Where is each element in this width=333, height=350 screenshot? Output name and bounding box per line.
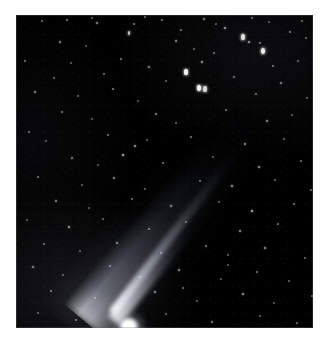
star [75, 319, 77, 321]
star [120, 58, 122, 60]
star [185, 221, 187, 223]
star [203, 18, 205, 20]
star [134, 145, 137, 148]
star [128, 31, 131, 35]
star [283, 138, 285, 140]
star [160, 252, 162, 254]
star [62, 274, 64, 276]
star [268, 21, 270, 23]
star [256, 271, 258, 273]
star [288, 280, 290, 282]
star [272, 65, 274, 67]
comet-photograph[interactable] [16, 15, 313, 328]
star [28, 131, 30, 133]
star [148, 66, 150, 68]
star [180, 29, 182, 31]
star [165, 313, 167, 315]
star [289, 31, 291, 33]
star [91, 118, 93, 120]
star [165, 80, 167, 82]
star [259, 315, 261, 317]
star [297, 60, 299, 62]
star [311, 295, 313, 297]
star [102, 218, 104, 220]
star [212, 156, 214, 158]
star [53, 77, 55, 79]
star [91, 17, 93, 19]
star [310, 189, 312, 191]
star [184, 69, 188, 75]
star [26, 219, 28, 221]
star [300, 160, 302, 162]
star [66, 19, 68, 21]
star [227, 254, 229, 256]
star [305, 37, 307, 39]
star [32, 266, 34, 268]
star [131, 198, 133, 200]
star [37, 312, 39, 314]
star [215, 23, 217, 25]
star [154, 291, 156, 293]
star [197, 85, 201, 91]
star [116, 242, 118, 244]
star [77, 95, 79, 97]
star [81, 184, 83, 186]
star [301, 20, 303, 22]
star [266, 120, 268, 122]
star [227, 264, 229, 266]
star [155, 113, 157, 115]
star-field [16, 15, 313, 328]
star [293, 203, 295, 205]
star [45, 140, 47, 142]
star [211, 321, 213, 323]
star [280, 82, 282, 84]
star [103, 73, 105, 75]
star [175, 40, 177, 42]
star [144, 16, 146, 18]
star [148, 228, 150, 230]
star [71, 157, 73, 159]
star [291, 114, 293, 116]
page-background [0, 0, 333, 350]
star [107, 134, 109, 136]
star [50, 290, 52, 292]
star [146, 139, 148, 141]
star [94, 297, 96, 299]
star [170, 205, 172, 207]
star [251, 17, 253, 19]
star [277, 223, 279, 225]
star [244, 143, 246, 145]
star [137, 100, 139, 102]
star [55, 200, 57, 202]
star [37, 176, 39, 178]
star [43, 243, 45, 245]
star [113, 177, 115, 179]
star [304, 257, 306, 259]
star [161, 19, 163, 21]
star [175, 122, 177, 124]
star [34, 91, 36, 93]
star [273, 302, 275, 304]
star [162, 162, 164, 164]
star [144, 188, 146, 190]
star [196, 300, 198, 302]
star [182, 287, 184, 289]
star [97, 164, 99, 166]
star [242, 293, 245, 296]
star [109, 265, 111, 267]
star [85, 45, 87, 47]
star [255, 93, 257, 95]
star [201, 61, 204, 64]
star [59, 41, 61, 43]
star [68, 226, 71, 229]
star [70, 62, 72, 64]
star [218, 201, 220, 203]
star [225, 109, 227, 111]
star [122, 154, 125, 157]
star [274, 179, 276, 181]
star [251, 210, 254, 213]
star [193, 48, 195, 50]
star [139, 276, 141, 278]
star [224, 27, 227, 30]
star [41, 20, 43, 22]
